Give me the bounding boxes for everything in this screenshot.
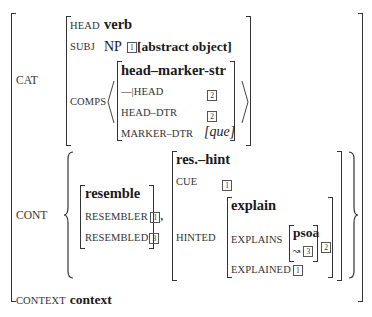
cont-right-curly-brace [347,151,359,279]
cat-label: CAT [16,74,38,86]
hinted-feature: HINTED [176,232,216,243]
reshint-type: res.–hint [176,151,230,168]
comps-feature: COMPS [70,96,106,107]
subj-value: NP 1[abstract object] [104,37,232,55]
comps-row-head-tag: 2 [207,85,217,103]
tag-1: 1 [222,180,232,191]
subj-restriction: [abstract object] [137,39,232,54]
comps-left-angle [106,80,116,124]
tag-1: 1 [150,212,160,223]
comps-row-headdtr-feature: HEAD–DTR [121,107,177,118]
comps-row-head-feature: —|HEAD [121,86,163,97]
resembler-label: RESEMBLER [85,211,148,222]
explains-feature: EXPLAINS [231,234,283,245]
tag-2: 2 [321,242,331,253]
comps-row-headdtr-tag: 2 [207,106,217,124]
comps-type: head–marker-str [121,62,226,79]
tag-3: 3 [303,246,313,257]
tag-2: 2 [207,90,217,101]
tag-2: 2 [207,111,217,122]
tag-3: 3 [149,233,159,244]
psoa-type: psoa [293,225,319,241]
cue-feature: CUE [176,176,197,187]
subj-feature: SUBJ [70,41,95,52]
cont-left-curly-brace [63,151,75,279]
leadsto-icon: ↝ [293,246,301,256]
resembler-feature: RESEMBLER 1 [85,211,160,223]
context-feature: CONTEXT [16,295,66,306]
head-feature: HEAD [70,20,100,31]
comps-row-markerdtr-value: [que] [204,124,235,140]
context-row: CONTEXT context [16,290,112,308]
list-comma: , [160,208,164,224]
context-value: context [70,292,112,307]
explain-type: explain [231,197,276,214]
tag-1: 1 [293,265,303,276]
comps-row-markerdtr-feature: MARKER–DTR [121,128,193,139]
subj-tag: 1 [127,42,137,53]
resembled-label: RESEMBLED [85,232,148,243]
head-value: verb [104,16,132,33]
cont-label: CONT [16,209,47,221]
reshint-left-bracket [172,151,177,281]
explains-outer-tag: 2 [321,237,331,255]
outer-left-bracket [11,13,16,302]
subj-np: NP [104,39,122,54]
psoa-arrow-row: ↝ 3 [293,245,313,257]
resemble-type: resemble [85,185,140,202]
reshint-right-bracket [337,151,342,281]
explained-label: EXPLAINED [231,264,291,275]
comps-right-angle [240,80,250,124]
cue-tag: 1 [222,175,232,193]
explained-feature: EXPLAINED1 [231,264,303,276]
cat-left-bracket [66,16,71,146]
resembled-feature: RESEMBLED3 [85,232,159,244]
